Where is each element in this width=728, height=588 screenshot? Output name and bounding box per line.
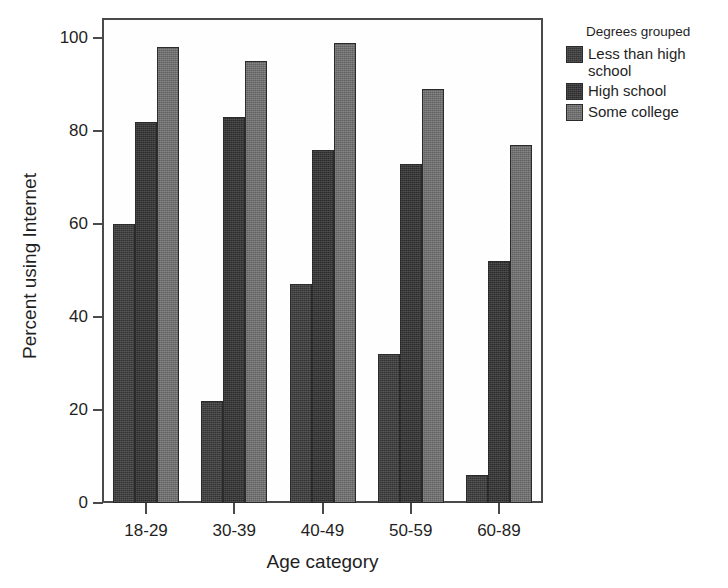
legend-item-label: Less than high school	[588, 45, 728, 79]
legend-swatch-icon	[566, 46, 583, 63]
legend-swatch-icon	[566, 83, 583, 100]
y-axis-tick-label: 20	[54, 401, 88, 418]
legend-item: Less than high school	[566, 45, 728, 79]
x-axis-tick-mark	[498, 503, 500, 514]
legend-item-label: High school	[588, 82, 666, 99]
x-axis-tick-label: 18-29	[101, 521, 191, 541]
y-axis-tick-label: 0	[54, 494, 88, 511]
y-axis-label: Percent using Internet	[19, 86, 41, 446]
x-axis-tick-label: 30-39	[189, 521, 279, 541]
y-axis-tick-labels: 020406080100	[46, 0, 88, 588]
plot-area	[102, 18, 543, 503]
x-axis-tick-mark	[145, 503, 147, 514]
y-axis-tick-label: 40	[54, 308, 88, 325]
y-axis-tick-label: 80	[54, 122, 88, 139]
legend-item: Some college	[566, 103, 728, 121]
legend-title: Degrees grouped	[586, 24, 728, 39]
legend: Degrees grouped Less than high schoolHig…	[566, 24, 728, 124]
x-axis-tick-mark	[322, 503, 324, 514]
x-axis-tick-mark	[410, 503, 412, 514]
y-axis-tick-label: 100	[54, 29, 88, 46]
legend-swatch-icon	[566, 104, 583, 121]
y-axis-tick-label: 60	[54, 215, 88, 232]
x-axis-tick-label: 60-89	[454, 521, 544, 541]
x-axis-tick-mark	[233, 503, 235, 514]
legend-entries: Less than high schoolHigh schoolSome col…	[566, 45, 728, 121]
legend-item: High school	[566, 82, 728, 100]
x-axis-tick-label: 50-59	[366, 521, 456, 541]
x-axis-tick-label: 40-49	[278, 521, 368, 541]
legend-item-label: Some college	[588, 103, 679, 120]
bar-chart-figure: 020406080100 18-2930-3940-4950-5960-89 P…	[0, 0, 728, 588]
x-axis-label: Age category	[102, 551, 543, 573]
